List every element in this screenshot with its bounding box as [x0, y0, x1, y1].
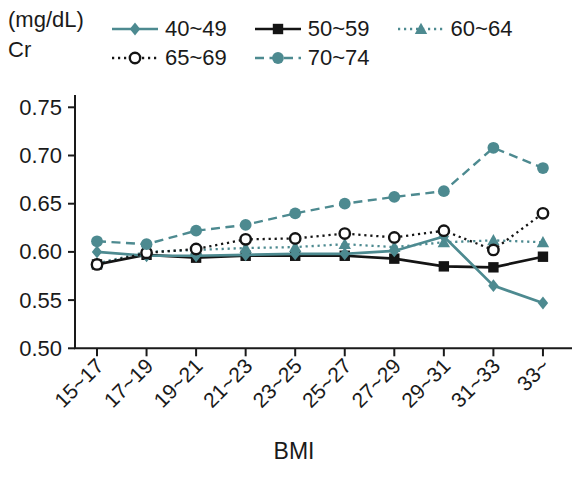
- svg-text:0.75: 0.75: [19, 95, 62, 120]
- svg-text:25~27: 25~27: [298, 354, 356, 412]
- svg-text:0.65: 0.65: [19, 191, 62, 216]
- svg-text:0.55: 0.55: [19, 288, 62, 313]
- svg-text:0.70: 0.70: [19, 143, 62, 168]
- x-axis-title: BMI: [0, 438, 588, 465]
- svg-text:23~25: 23~25: [248, 354, 306, 412]
- svg-text:0.60: 0.60: [19, 239, 62, 264]
- svg-text:33~: 33~: [512, 354, 553, 395]
- svg-text:31~33: 31~33: [446, 354, 504, 412]
- chart-figure: (mg/dL) Cr 40~49 50~59 60~64 65~69: [0, 0, 588, 485]
- svg-text:27~29: 27~29: [347, 354, 405, 412]
- svg-text:15~17: 15~17: [50, 354, 108, 412]
- line-chart-canvas: 0.500.550.600.650.700.7515~1717~1919~212…: [0, 0, 588, 485]
- svg-text:0.50: 0.50: [19, 336, 62, 361]
- svg-text:29~31: 29~31: [397, 354, 455, 412]
- svg-text:19~21: 19~21: [149, 354, 207, 412]
- svg-text:21~23: 21~23: [199, 354, 257, 412]
- svg-text:17~19: 17~19: [99, 354, 157, 412]
